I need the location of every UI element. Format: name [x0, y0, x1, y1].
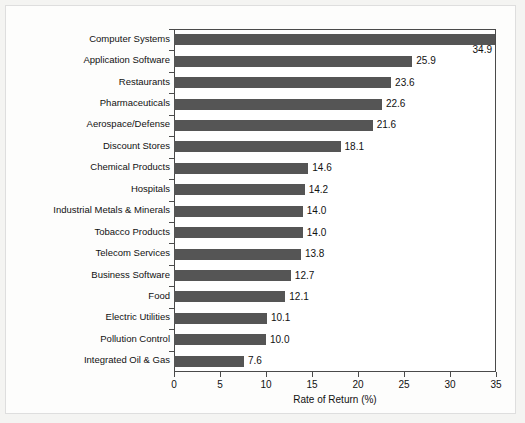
- bar-value-label: 10.1: [271, 312, 290, 323]
- bar: [174, 356, 244, 367]
- x-axis-tick: [450, 372, 451, 377]
- y-axis-tick: [169, 179, 174, 180]
- y-axis-tick: [169, 158, 174, 159]
- bar-value-label: 23.6: [395, 77, 414, 88]
- y-axis-tick: [169, 351, 174, 352]
- bar: [174, 270, 291, 281]
- x-axis-tick-label: 10: [251, 379, 281, 390]
- category-label: Computer Systems: [10, 33, 170, 44]
- category-label: Chemical Products: [10, 161, 170, 172]
- bar-value-label: 21.6: [377, 119, 396, 130]
- x-axis-tick: [358, 372, 359, 377]
- x-axis-tick: [220, 372, 221, 377]
- x-axis-tick: [266, 372, 267, 377]
- bar: [174, 227, 303, 238]
- bar: [174, 163, 308, 174]
- y-axis-tick: [169, 265, 174, 266]
- category-label: Hospitals: [10, 183, 170, 194]
- bar-value-label: 34.9: [466, 44, 492, 55]
- bar-value-label: 10.0: [270, 334, 289, 345]
- x-axis-tick: [404, 372, 405, 377]
- bar-value-label: 14.6: [312, 162, 331, 173]
- x-axis-tick: [174, 372, 175, 377]
- bar-value-label: 12.7: [295, 270, 314, 281]
- x-axis-tick-label: 20: [343, 379, 373, 390]
- category-label: Pharmaceuticals: [10, 97, 170, 108]
- category-label: Telecom Services: [10, 247, 170, 258]
- category-label: Food: [10, 290, 170, 301]
- category-label: Tobacco Products: [10, 226, 170, 237]
- category-label: Aerospace/Defense: [10, 118, 170, 129]
- bar: [174, 34, 495, 45]
- bar-value-label: 14.0: [307, 205, 326, 216]
- bar: [174, 120, 373, 131]
- x-axis-title: Rate of Return (%): [174, 394, 496, 405]
- bar-value-label: 12.1: [289, 291, 308, 302]
- y-axis-tick: [169, 329, 174, 330]
- x-axis-tick-label: 25: [389, 379, 419, 390]
- y-axis-tick: [169, 93, 174, 94]
- x-axis-tick: [496, 372, 497, 377]
- y-axis-tick: [169, 308, 174, 309]
- bar: [174, 206, 303, 217]
- bar: [174, 77, 391, 88]
- category-label: Industrial Metals & Minerals: [10, 204, 170, 215]
- bar-value-label: 14.2: [309, 184, 328, 195]
- y-axis-tick: [169, 286, 174, 287]
- x-axis-tick: [312, 372, 313, 377]
- y-axis-tick: [169, 201, 174, 202]
- bar-value-label: 7.6: [248, 355, 262, 366]
- x-axis-tick-label: 0: [159, 379, 189, 390]
- bar: [174, 334, 266, 345]
- x-axis-tick-label: 30: [435, 379, 465, 390]
- y-axis-tick: [169, 115, 174, 116]
- category-label: Integrated Oil & Gas: [10, 354, 170, 365]
- category-label: Pollution Control: [10, 333, 170, 344]
- bar-rows: Computer Systems34.9Application Software…: [6, 6, 525, 423]
- bar: [174, 291, 285, 302]
- bar-value-label: 13.8: [305, 248, 324, 259]
- y-axis-tick: [169, 243, 174, 244]
- y-axis-tick: [169, 72, 174, 73]
- bar-value-label: 18.1: [345, 141, 364, 152]
- category-label: Application Software: [10, 54, 170, 65]
- y-axis-tick: [169, 29, 174, 30]
- y-axis-tick: [169, 136, 174, 137]
- bar-value-label: 25.9: [416, 55, 435, 66]
- bar: [174, 249, 301, 260]
- category-label: Restaurants: [10, 76, 170, 87]
- chart-card: Computer Systems34.9Application Software…: [5, 5, 516, 414]
- bar: [174, 184, 305, 195]
- category-label: Electric Utilities: [10, 311, 170, 322]
- x-axis-tick-label: 15: [297, 379, 327, 390]
- bar: [174, 313, 267, 324]
- y-axis-tick: [169, 222, 174, 223]
- x-axis-tick-label: 35: [481, 379, 511, 390]
- y-axis-tick: [169, 50, 174, 51]
- category-label: Business Software: [10, 269, 170, 280]
- bar-value-label: 14.0: [307, 227, 326, 238]
- chart-page: Computer Systems34.9Application Software…: [0, 0, 525, 423]
- bar-value-label: 22.6: [386, 98, 405, 109]
- bar: [174, 99, 382, 110]
- bar: [174, 56, 412, 67]
- x-axis-tick-label: 5: [205, 379, 235, 390]
- category-label: Discount Stores: [10, 140, 170, 151]
- bar: [174, 141, 341, 152]
